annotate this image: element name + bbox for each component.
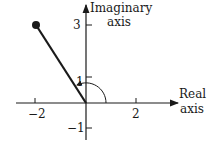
tick-label-y-neg1: −1 [67, 121, 85, 135]
tick-label-x-2: 2 [132, 107, 140, 121]
imaginary-axis-label-line1: Imaginary [90, 1, 152, 15]
real-axis-label-line1: Real [179, 87, 206, 101]
tick-label-y-1: 1 [76, 75, 84, 89]
point-neg2-3i [32, 21, 40, 29]
imaginary-axis-label-line2: axis [107, 15, 131, 29]
tick-label-y-3: 3 [73, 18, 81, 32]
tick-label-x-neg2: −2 [28, 107, 46, 121]
real-axis-label-line2: axis [180, 102, 204, 116]
vector [36, 25, 86, 103]
complex-plane-diagram: −2 2 3 1 −1 Imaginary axis Real axis [0, 0, 215, 148]
